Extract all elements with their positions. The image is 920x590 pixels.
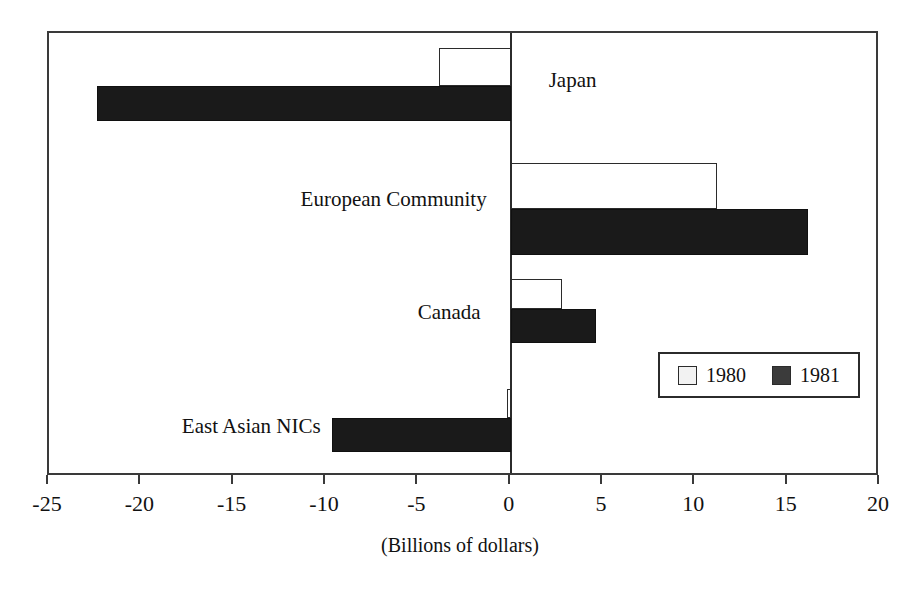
bar-1981-east-asian-nics xyxy=(332,418,511,452)
legend-entry-1981: 1981 xyxy=(772,365,840,385)
x-tick-0 xyxy=(508,475,510,484)
category-label-european-community: European Community xyxy=(49,188,487,211)
x-tick-neg20 xyxy=(138,475,140,484)
plot-surface: JapanEuropean CommunityCanadaEast Asian … xyxy=(49,33,876,473)
bar-1980-japan xyxy=(439,48,511,86)
bar-1980-east-asian-nics xyxy=(507,389,511,418)
bar-1980-canada xyxy=(511,279,563,309)
x-tick-label-neg10: -10 xyxy=(309,492,338,516)
x-tick-label-neg20: -20 xyxy=(125,492,154,516)
x-tick-neg10 xyxy=(323,475,325,484)
plot-frame: JapanEuropean CommunityCanadaEast Asian … xyxy=(47,31,878,475)
x-tick-neg5 xyxy=(415,475,417,484)
category-label-japan: Japan xyxy=(549,69,597,92)
bar-1981-european-community xyxy=(511,209,808,255)
x-tick-label-15: 15 xyxy=(775,492,797,516)
legend-entry-1980: 1980 xyxy=(678,365,746,385)
x-tick-label-0: 0 xyxy=(503,492,514,516)
chart-legend: 1980 1981 xyxy=(658,352,860,398)
x-tick-10 xyxy=(692,475,694,484)
bar-chart: JapanEuropean CommunityCanadaEast Asian … xyxy=(0,0,920,590)
x-tick-label-5: 5 xyxy=(596,492,607,516)
x-tick-15 xyxy=(785,475,787,484)
bar-1980-european-community xyxy=(511,163,718,209)
x-tick-5 xyxy=(600,475,602,484)
category-label-canada: Canada xyxy=(49,301,481,324)
x-tick-label-neg15: -15 xyxy=(217,492,246,516)
legend-label-1980: 1980 xyxy=(706,365,746,385)
x-tick-neg15 xyxy=(231,475,233,484)
bar-1981-canada xyxy=(511,309,596,343)
category-label-east-asian-nics: East Asian NICs xyxy=(49,415,321,438)
x-tick-label-neg25: -25 xyxy=(32,492,61,516)
x-tick-neg25 xyxy=(46,475,48,484)
x-tick-label-20: 20 xyxy=(867,492,889,516)
legend-swatch-1981-icon xyxy=(772,366,791,385)
x-axis-title: (Billions of dollars) xyxy=(0,534,920,556)
legend-label-1981: 1981 xyxy=(800,365,840,385)
x-tick-label-10: 10 xyxy=(682,492,704,516)
x-tick-20 xyxy=(877,475,879,484)
bar-1981-japan xyxy=(97,86,511,121)
legend-swatch-1980-icon xyxy=(678,366,697,385)
x-tick-label-neg5: -5 xyxy=(407,492,425,516)
